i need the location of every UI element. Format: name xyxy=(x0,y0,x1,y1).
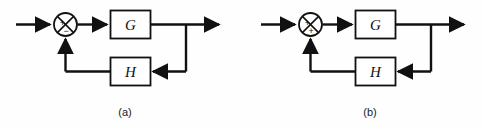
caption-a: (a) xyxy=(118,106,131,118)
summing-junction-feedback-sign-b: + xyxy=(309,26,314,36)
diagram-a: + − G H (a) xyxy=(16,11,219,119)
caption-b: (b) xyxy=(363,106,376,118)
diagram-b: + + G H (b) xyxy=(261,11,464,119)
feedback-block-h-label-b: H xyxy=(369,64,382,80)
figure-canvas: + − G H (a) xyxy=(0,0,483,129)
feedback-block-h-label-a: H xyxy=(124,64,137,80)
forward-block-g-label-a: G xyxy=(125,17,136,33)
summing-junction-feedback-sign-a: − xyxy=(64,26,69,36)
block-diagram-figure: + − G H (a) xyxy=(0,0,483,129)
forward-block-g-label-b: G xyxy=(370,17,381,33)
